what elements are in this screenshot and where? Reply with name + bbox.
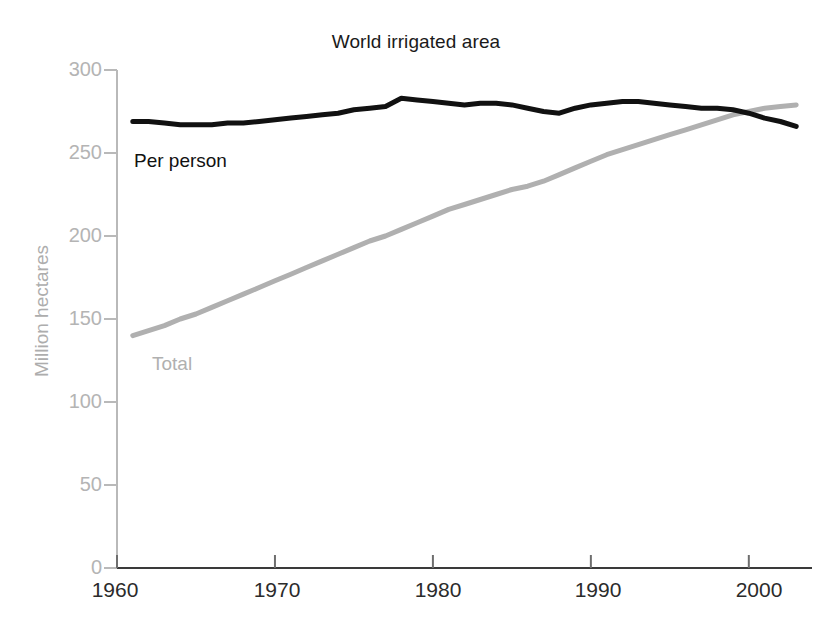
- axis-group: [104, 70, 812, 568]
- x-tick-label-1990: 1990: [553, 578, 643, 602]
- y-tick-label-300: 300: [40, 58, 102, 81]
- total-line: [133, 105, 796, 336]
- chart-title: World irrigated area: [0, 31, 832, 53]
- chart-plot-svg: [0, 0, 832, 631]
- y-tick-label-200: 200: [40, 224, 102, 247]
- y-tick-label-150: 150: [40, 307, 102, 330]
- per-person-series-label: Per person: [134, 150, 227, 172]
- y-tick-label-0: 0: [40, 556, 102, 579]
- x-tick-marks: [117, 555, 749, 568]
- y-tick-label-50: 50: [40, 473, 102, 496]
- y-tick-label-250: 250: [40, 141, 102, 164]
- x-tick-label-1960: 1960: [70, 578, 160, 602]
- series-group: [133, 98, 796, 335]
- total-series-label: Total: [152, 353, 192, 375]
- chart-container: World irrigated area Million hectares 30…: [0, 0, 832, 631]
- y-tick-marks: [104, 70, 117, 568]
- y-tick-label-100: 100: [40, 390, 102, 413]
- per-person-line: [133, 98, 796, 126]
- x-tick-label-2000: 2000: [714, 578, 804, 602]
- x-tick-label-1970: 1970: [232, 578, 322, 602]
- x-tick-label-1980: 1980: [393, 578, 483, 602]
